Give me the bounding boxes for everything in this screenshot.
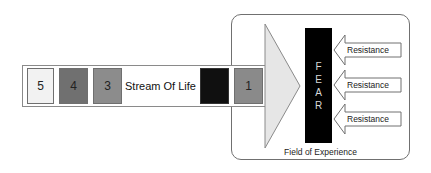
resistance-label-2: Resistance (347, 80, 389, 90)
field-of-experience-label: Field of Experience (231, 147, 410, 157)
resistance-label-3: Resistance (347, 114, 389, 124)
resistance-label-1: Resistance (347, 45, 389, 55)
